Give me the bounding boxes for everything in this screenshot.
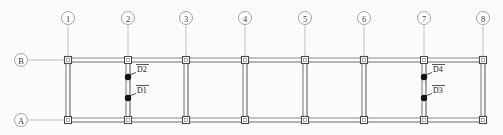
grid-bubble-label-8: 8	[481, 14, 485, 24]
joint-2B	[125, 57, 132, 64]
structural-frame-diagram: 12345678BAD1D2D3D4	[0, 0, 503, 135]
joint-1B	[65, 57, 72, 64]
marker-label-D4: D4	[433, 65, 443, 74]
joint-7A	[421, 117, 428, 124]
grid-bubble-label-5: 5	[303, 14, 307, 24]
damper-marker-D4[interactable]	[421, 74, 427, 80]
damper-marker-D3[interactable]	[421, 95, 427, 101]
marker-label-D2: D2	[137, 65, 147, 74]
joint-8B	[480, 57, 487, 64]
joint-3B	[183, 57, 190, 64]
joint-5B	[302, 57, 309, 64]
grid-bubble-label-A: A	[18, 116, 25, 126]
grid-bubble-label-B: B	[18, 56, 24, 66]
damper-marker-D2[interactable]	[125, 74, 131, 80]
joint-2A	[125, 117, 132, 124]
damper-marker-D1[interactable]	[125, 95, 131, 101]
grid-bubble-label-6: 6	[362, 14, 366, 24]
joint-5A	[302, 117, 309, 124]
joint-6A	[361, 117, 368, 124]
frame-plan-canvas: 12345678BAD1D2D3D4	[0, 0, 503, 135]
grid-bubble-label-1: 1	[66, 14, 70, 24]
joint-8A	[480, 117, 487, 124]
grid-bubble-label-3: 3	[184, 14, 188, 24]
joint-6B	[361, 57, 368, 64]
marker-label-D3: D3	[433, 86, 443, 95]
joint-4A	[242, 117, 249, 124]
joint-7B	[421, 57, 428, 64]
grid-bubble-label-2: 2	[126, 14, 130, 24]
marker-label-D1: D1	[137, 86, 147, 95]
joint-1A	[65, 117, 72, 124]
joint-4B	[242, 57, 249, 64]
joint-3A	[183, 117, 190, 124]
grid-bubble-label-7: 7	[422, 14, 426, 24]
